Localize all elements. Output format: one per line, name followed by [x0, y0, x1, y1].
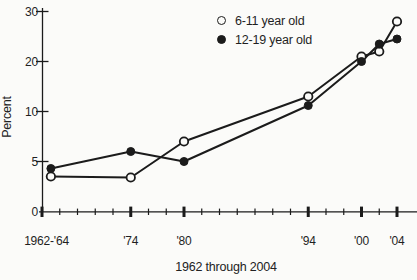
- y-tick-label: 20: [25, 55, 38, 69]
- x-tick-label: '80: [176, 234, 192, 248]
- x-tick-label: '04: [389, 234, 405, 248]
- legend-label-6-11: 6-11 year old: [235, 14, 304, 28]
- data-point-open: [47, 172, 55, 180]
- data-point-filled: [393, 35, 401, 43]
- data-point-open: [180, 137, 188, 145]
- legend-item-12-19: 12-19 year old: [217, 30, 312, 49]
- y-tick-label: 10: [25, 105, 38, 119]
- x-tick-label: '74: [123, 234, 139, 248]
- plot-area: 051020301962-'64'74'80'94'00'04: [0, 0, 417, 280]
- data-point-filled: [358, 58, 366, 66]
- x-tick-label: '00: [354, 234, 370, 248]
- data-point-open: [127, 173, 135, 181]
- legend-label-12-19: 12-19 year old: [235, 33, 312, 47]
- data-point-open: [393, 17, 401, 25]
- filled-circle-icon: [217, 35, 226, 44]
- legend-item-6-11: 6-11 year old: [217, 11, 312, 30]
- data-point-filled: [127, 148, 135, 156]
- x-axis-title: 1962 through 2004: [175, 260, 277, 274]
- y-tick-label: 30: [25, 5, 38, 19]
- y-tick-label: 5: [32, 155, 39, 169]
- open-circle-icon: [217, 16, 226, 25]
- y-tick-label: 0: [32, 205, 39, 219]
- data-point-open: [304, 92, 312, 100]
- series-line-1: [51, 39, 397, 169]
- legend: 6-11 year old 12-19 year old: [217, 11, 312, 49]
- x-tick-label: 1962-'64: [24, 234, 69, 248]
- data-point-filled: [47, 165, 55, 173]
- data-point-filled: [180, 158, 188, 166]
- data-point-filled: [304, 102, 312, 110]
- y-axis-title: Percent: [0, 85, 14, 149]
- data-point-open: [375, 47, 383, 55]
- line-chart-figure: 051020301962-'64'74'80'94'00'04 Percent …: [0, 0, 417, 280]
- data-point-filled: [375, 40, 383, 48]
- x-tick-label: '94: [301, 234, 317, 248]
